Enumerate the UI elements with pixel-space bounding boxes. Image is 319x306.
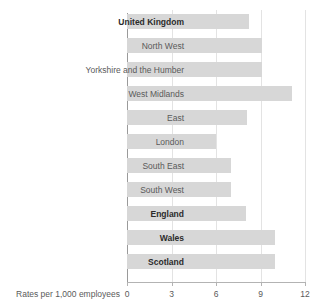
category-label: North West xyxy=(64,34,192,58)
tick-mark xyxy=(172,282,173,286)
tick-mark xyxy=(305,282,306,286)
tick-mark xyxy=(261,282,262,286)
category-label: West Midlands xyxy=(64,82,192,106)
category-label: South East xyxy=(64,154,192,178)
horizontal-bar-chart: United KingdomNorth WestYorkshire and th… xyxy=(0,0,319,306)
category-label: London xyxy=(64,130,192,154)
x-tick-label: 6 xyxy=(206,289,226,299)
x-tick-label: 3 xyxy=(162,289,182,299)
x-tick-label: 9 xyxy=(251,289,271,299)
category-label: East xyxy=(64,106,192,130)
category-label: United Kingdom xyxy=(64,10,192,34)
category-label: South West xyxy=(64,178,192,202)
category-label: England xyxy=(64,202,192,226)
tick-mark xyxy=(216,282,217,286)
tick-mark xyxy=(127,282,128,286)
category-label: Wales xyxy=(64,226,192,250)
category-label: Yorkshire and the Humber xyxy=(64,58,192,82)
x-axis-title: Rates per 1,000 employees xyxy=(8,289,120,299)
x-tick-label: 12 xyxy=(295,289,315,299)
category-label: Scotland xyxy=(64,250,192,274)
gridline xyxy=(305,10,306,282)
x-tick-label: 0 xyxy=(117,289,137,299)
